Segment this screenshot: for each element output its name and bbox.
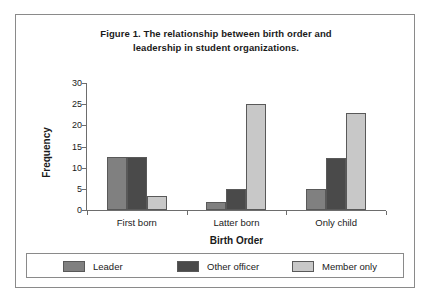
x-axis-tick-labels: First bornLatter bornOnly child (87, 217, 386, 233)
legend-label: Other officer (207, 261, 259, 272)
y-axis-title: Frequency (38, 107, 52, 197)
y-axis-tick-label: 5 (60, 184, 82, 193)
y-axis-tick-mark (82, 210, 86, 211)
y-axis-tick-mark (82, 104, 86, 105)
legend-label: Leader (93, 261, 123, 272)
legend-item[interactable]: Leader (63, 259, 123, 273)
legend-item[interactable]: Other officer (177, 259, 259, 273)
bar[interactable] (107, 157, 127, 210)
y-axis-tick-mark (82, 83, 86, 84)
bar-group (187, 83, 287, 210)
figure-title-line-1: Figure 1. The relationship between birth… (40, 27, 392, 41)
x-axis-tick-mark (187, 211, 188, 215)
y-axis-tick-label: 30 (60, 79, 82, 88)
bar[interactable] (147, 196, 167, 210)
bar[interactable] (226, 189, 246, 210)
y-axis-tick-label: 25 (60, 100, 82, 109)
legend-item[interactable]: Member only (292, 259, 377, 273)
y-axis-title-text: Frequency (41, 113, 52, 193)
figure-title-line-2: leadership in student organizations. (40, 41, 392, 55)
y-axis-tick-label: 15 (60, 142, 82, 151)
figure-frame: Figure 1. The relationship between birth… (15, 14, 415, 288)
bar[interactable] (306, 189, 326, 210)
bar-group (87, 83, 187, 210)
y-axis-tick-label: 20 (60, 121, 82, 130)
y-axis-tick-mark (82, 168, 86, 169)
x-axis-tick-mark (286, 211, 287, 215)
y-axis-tick-label: 10 (60, 163, 82, 172)
legend-swatch-icon (292, 261, 314, 272)
x-axis-tick-label: Only child (315, 217, 357, 228)
bar[interactable] (127, 157, 147, 210)
y-axis-tick-mark (82, 147, 86, 148)
legend-swatch-icon (177, 261, 199, 272)
x-axis-tick-mark (87, 211, 88, 215)
bar[interactable] (326, 158, 346, 210)
bar[interactable] (346, 113, 366, 210)
bars-canvas (87, 83, 386, 210)
figure-title: Figure 1. The relationship between birth… (40, 27, 392, 55)
x-axis-tick-mark (386, 211, 387, 215)
y-axis-tick-labels: 051015202530 (56, 67, 82, 210)
x-axis-line (86, 210, 386, 211)
chart-legend: LeaderOther officerMember only (26, 253, 404, 278)
y-axis-tick-mark (82, 189, 86, 190)
y-axis-tick-mark (82, 125, 86, 126)
bar-group (286, 83, 386, 210)
legend-label: Member only (322, 261, 377, 272)
y-axis-tick-label: 0 (60, 206, 82, 215)
bar[interactable] (206, 202, 226, 210)
x-axis-tick-label: Latter born (214, 217, 260, 228)
plot-region: Frequency 051015202530 First bornLatter … (40, 67, 392, 242)
legend-swatch-icon (63, 261, 85, 272)
x-axis-title: Birth Order (87, 235, 386, 246)
x-axis-tick-label: First born (117, 217, 157, 228)
bar[interactable] (246, 104, 266, 210)
